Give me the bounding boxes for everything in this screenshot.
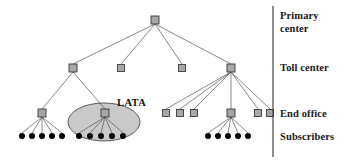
subscriber-node-sub-4 xyxy=(49,133,55,139)
edge-eo-1-to-sub-1 xyxy=(22,117,42,133)
lata-label: LATA xyxy=(117,97,146,108)
subscriber-nodes-group xyxy=(19,133,251,139)
primary-center-node-pc-1 xyxy=(151,16,159,24)
subscriber-node-sub-8 xyxy=(98,133,104,139)
subscriber-node-sub-13 xyxy=(225,133,231,139)
subscriber-node-sub-6 xyxy=(76,133,82,139)
end-office-node-eo-2 xyxy=(101,109,109,117)
end-office-node-eo-3 xyxy=(163,110,170,117)
edge-pc-1-to-tc-3 xyxy=(155,24,182,64)
edge-eo-6-to-sub-14 xyxy=(231,117,238,133)
edge-pc-1-to-tc-4 xyxy=(155,24,231,64)
edge-tc-4-to-eo-5 xyxy=(194,72,231,109)
edge-tc-1-to-eo-2 xyxy=(73,72,105,109)
subscriber-node-sub-1 xyxy=(19,133,25,139)
subscriber-node-sub-3 xyxy=(39,133,45,139)
tier-label-toll-center: Toll center xyxy=(280,62,329,75)
edge-tc-1-to-eo-1 xyxy=(42,72,73,109)
edge-tc-4-to-eo-8 xyxy=(231,72,270,109)
subscriber-node-sub-5 xyxy=(59,133,65,139)
end-office-node-eo-5 xyxy=(191,110,198,117)
tier-label-primary-center: Primary center xyxy=(280,10,319,35)
toll-center-node-tc-1 xyxy=(69,64,77,72)
network-hierarchy-diagram: Primary centerToll centerEnd officeSubsc… xyxy=(0,0,344,163)
edge-tc-4-to-eo-4 xyxy=(180,72,231,109)
edge-pc-1-to-tc-2 xyxy=(121,24,155,64)
subscriber-node-sub-10 xyxy=(120,133,126,139)
subscriber-node-sub-9 xyxy=(109,133,115,139)
tier-label-end-office: End office xyxy=(280,108,327,121)
subscriber-node-sub-15 xyxy=(245,133,251,139)
toll-center-node-tc-4 xyxy=(227,64,235,72)
edge-eo-6-to-sub-15 xyxy=(231,117,248,133)
edge-eo-1-to-sub-2 xyxy=(32,117,42,133)
end-office-node-eo-4 xyxy=(177,110,184,117)
subscriber-node-sub-12 xyxy=(215,133,221,139)
subscriber-node-sub-11 xyxy=(205,133,211,139)
subscriber-node-sub-7 xyxy=(87,133,93,139)
edge-tc-4-to-eo-3 xyxy=(166,72,231,109)
toll-center-node-tc-3 xyxy=(179,65,186,72)
subscriber-node-sub-2 xyxy=(29,133,35,139)
tier-label-subscribers: Subscribers xyxy=(280,131,334,144)
end-office-node-eo-7 xyxy=(255,110,262,117)
edge-eo-1-to-sub-4 xyxy=(42,117,52,133)
switch-nodes-group xyxy=(38,16,274,117)
toll-center-node-tc-2 xyxy=(118,65,125,72)
edge-eo-1-to-sub-5 xyxy=(42,117,62,133)
end-office-node-eo-1 xyxy=(38,109,46,117)
subscriber-node-sub-14 xyxy=(235,133,241,139)
end-office-node-eo-6 xyxy=(227,109,235,117)
edge-tc-4-to-eo-7 xyxy=(231,72,258,109)
edge-pc-1-to-tc-1 xyxy=(73,24,155,64)
